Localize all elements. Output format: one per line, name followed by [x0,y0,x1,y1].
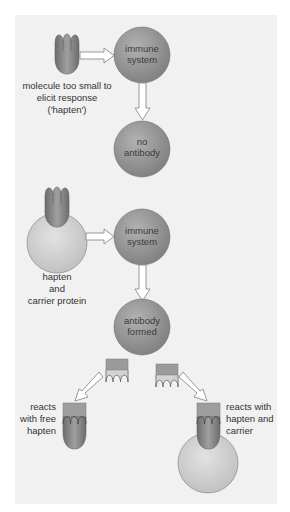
hapten-on-carrier [45,187,69,227]
node-antibody-formed: antibody formed [114,299,170,355]
node-immune-system-2: immune system [114,209,170,265]
antibody-with-free-hapten [63,403,86,449]
node-immune-system-1: immune system [114,27,170,83]
node-label-line: immune [125,43,159,54]
label-line: hapten and [226,413,274,424]
label-line: with free [19,413,56,424]
hapten-molecule-free [55,34,79,74]
label-line: molecule too small to [22,80,111,91]
hapten-carrier-diagram: immune system molecule too small to elic… [0,0,290,512]
label-line: carrier [226,425,253,436]
label-line: ('hapten') [47,104,86,115]
label-line: and [49,283,65,294]
antibody-with-hapten-carrier [197,403,220,449]
label-line: hapten [42,271,71,282]
node-label-line: antibody [124,147,160,158]
node-label-line: antibody [124,315,160,326]
node-label-line: immune [125,225,159,236]
node-no-antibody: no antibody [114,121,170,177]
node-label-line: system [127,236,157,247]
node-label-line: system [127,54,157,65]
label-line: hapten [27,425,56,436]
label-line: reacts [30,401,56,412]
label-line: reacts with [226,401,271,412]
label-line: carrier protein [28,295,87,306]
label-line: elicit response [37,92,98,103]
node-label-line: no [137,136,148,147]
node-label-line: formed [127,326,157,337]
